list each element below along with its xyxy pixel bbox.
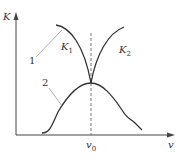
y-axis-arrow-icon <box>14 12 19 20</box>
diagram-svg <box>0 0 185 159</box>
callout-1-label: 1 <box>29 56 35 66</box>
diagram-canvas: K v v0 K1 K2 1 2 <box>0 0 185 159</box>
K2-label: K2 <box>119 45 131 58</box>
y-axis-label: K <box>3 12 10 22</box>
x-axis-label: v <box>168 140 174 150</box>
K1-label-sub: 1 <box>68 47 72 55</box>
x-axis-arrow-icon <box>167 133 175 138</box>
callout-2-label: 2 <box>42 78 48 88</box>
curve-2 <box>42 83 142 133</box>
K1-label: K1 <box>61 42 73 55</box>
K2-label-sub: 2 <box>126 50 130 58</box>
v0-label-sub: 0 <box>92 145 96 153</box>
callout-1-leader <box>36 30 62 57</box>
v0-label: v0 <box>86 140 96 153</box>
callout-2-leader <box>49 88 62 106</box>
